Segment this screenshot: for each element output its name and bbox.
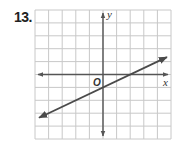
coordinate-graph: x y O bbox=[0, 0, 178, 145]
x-axis-label: x bbox=[162, 76, 168, 88]
origin-label: O bbox=[93, 77, 101, 88]
y-axis-label: y bbox=[106, 8, 112, 20]
axes bbox=[38, 13, 168, 136]
